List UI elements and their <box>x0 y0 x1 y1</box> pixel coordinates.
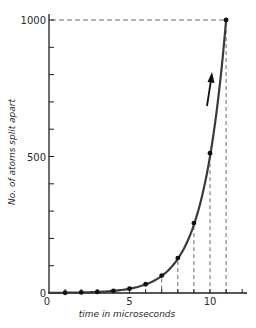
growth-arrow-icon <box>207 72 215 106</box>
x-axis-label: time in microseconds <box>79 309 176 319</box>
x-tick-label: 0 <box>44 296 50 307</box>
data-point <box>95 290 100 295</box>
x-tick-label: 10 <box>204 296 217 307</box>
dashed-guide-lines <box>51 20 226 293</box>
data-point <box>127 286 132 291</box>
data-points <box>63 18 229 296</box>
x-tick-label: 5 <box>126 296 132 307</box>
data-point <box>208 151 213 156</box>
axes <box>49 14 247 293</box>
tick-labels: 050010000510 <box>21 15 217 307</box>
data-point <box>79 290 84 295</box>
data-point <box>175 256 180 261</box>
data-point <box>224 18 229 23</box>
data-point <box>63 290 68 295</box>
data-point <box>159 273 164 278</box>
data-point <box>143 282 148 287</box>
y-axis-label: No. of atoms split apart <box>7 98 17 205</box>
data-point <box>111 288 116 293</box>
y-tick-label: 500 <box>27 152 46 163</box>
data-curve <box>49 20 226 293</box>
exponential-growth-chart: 050010000510 time in microseconds No. of… <box>0 0 256 328</box>
y-tick-label: 1000 <box>21 15 46 26</box>
data-point <box>192 221 197 226</box>
